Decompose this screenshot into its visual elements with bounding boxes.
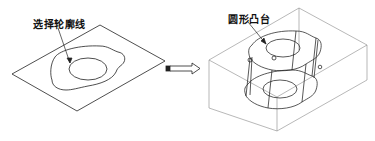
boss-feature xyxy=(245,31,322,109)
cad-figure: 选择轮廓线 圆形凸台 xyxy=(0,0,375,141)
select-profile-callout: 选择轮廓线 xyxy=(33,16,86,31)
sketch-plane xyxy=(12,25,165,111)
circular-boss-callout: 圆形凸台 xyxy=(228,11,270,26)
block-wireframe xyxy=(209,8,367,131)
transform-arrow-icon xyxy=(166,63,200,74)
left-leader xyxy=(58,28,72,63)
